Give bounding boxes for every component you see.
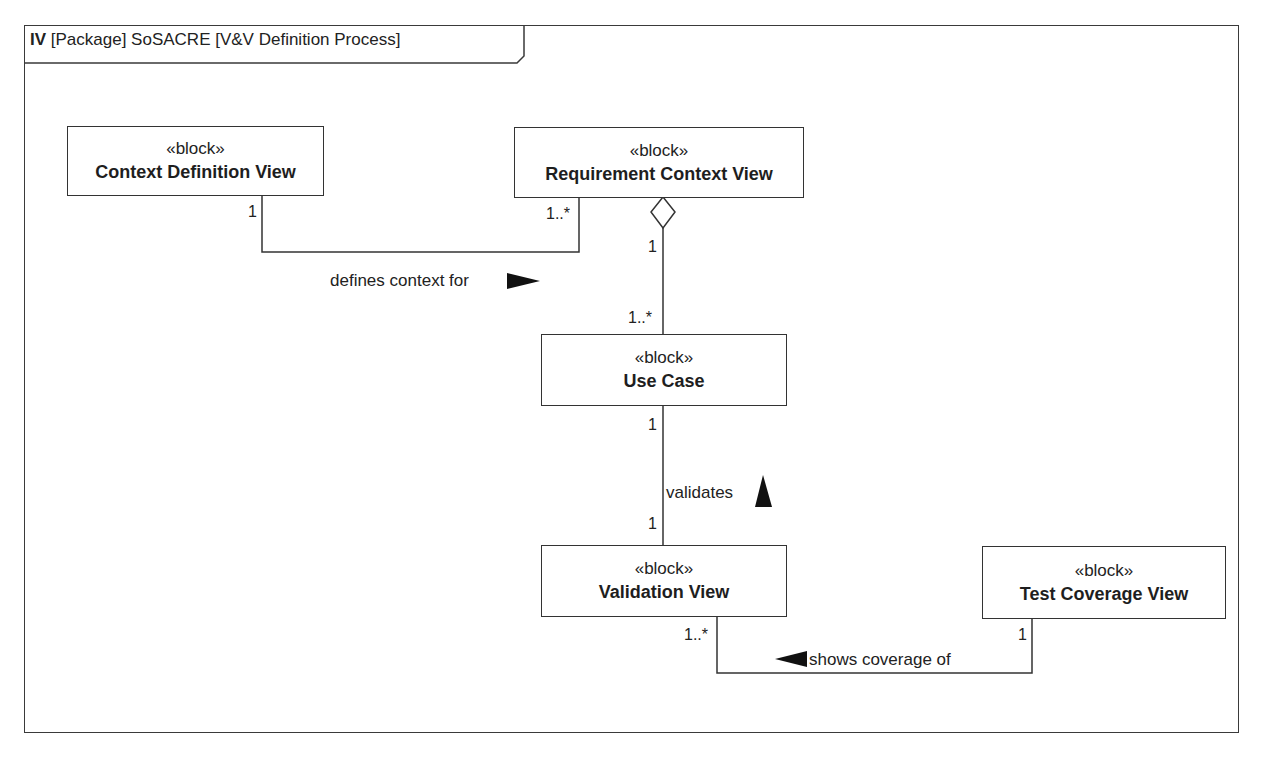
block-name: Use Case <box>623 369 704 393</box>
stereotype-label: «block» <box>635 347 694 369</box>
frame-title-text: [Package] SoSACRE [V&V Definition Proces… <box>51 30 401 49</box>
aggregation-diamond-icon <box>651 197 675 228</box>
multiplicity-rcv-aggregation: 1 <box>648 238 657 256</box>
block-name: Validation View <box>599 580 730 604</box>
block-name: Test Coverage View <box>1020 582 1188 606</box>
direction-arrow-left-icon <box>775 651 807 667</box>
multiplicity-rcv-defines: 1..* <box>546 205 570 223</box>
stereotype-label: «block» <box>166 138 225 160</box>
block-context-definition-view[interactable]: «block» Context Definition View <box>67 126 324 196</box>
block-name: Context Definition View <box>95 160 296 184</box>
stereotype-label: «block» <box>1075 560 1134 582</box>
multiplicity-tcv: 1 <box>1018 626 1027 644</box>
frame-kind: IV <box>30 30 46 49</box>
block-name: Requirement Context View <box>545 162 773 186</box>
stereotype-label: «block» <box>635 558 694 580</box>
block-test-coverage-view[interactable]: «block» Test Coverage View <box>982 546 1226 619</box>
direction-arrow-up-icon <box>755 475 772 507</box>
frame-title: IV [Package] SoSACRE [V&V Definition Pro… <box>30 29 400 51</box>
multiplicity-use-case-validates: 1 <box>648 416 657 434</box>
block-requirement-context-view[interactable]: «block» Requirement Context View <box>514 127 804 198</box>
block-validation-view[interactable]: «block» Validation View <box>541 545 787 617</box>
direction-arrow-right-icon <box>507 273 540 289</box>
multiplicity-cdv: 1 <box>248 203 257 221</box>
multiplicity-validation-view-coverage: 1..* <box>684 626 708 644</box>
multiplicity-use-case-aggregation: 1..* <box>628 309 652 327</box>
multiplicity-validation-view-validates: 1 <box>648 515 657 533</box>
association-label-defines-context-for: defines context for <box>330 271 469 291</box>
association-label-shows-coverage-of: shows coverage of <box>809 650 951 670</box>
stereotype-label: «block» <box>630 140 689 162</box>
block-use-case[interactable]: «block» Use Case <box>541 334 787 406</box>
association-defines-context-for[interactable] <box>262 195 579 252</box>
association-label-validates: validates <box>666 483 733 503</box>
